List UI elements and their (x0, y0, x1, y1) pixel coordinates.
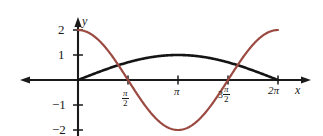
fraction-body: π 2 (122, 89, 129, 109)
y-axis (74, 17, 81, 136)
plot-canvas (0, 0, 323, 136)
fraction-half-pi: π 2 (122, 89, 129, 109)
fraction-denominator: 2 (122, 99, 129, 108)
y-axis-label: y (82, 15, 87, 27)
fraction-denominator: 2 (223, 95, 230, 104)
x-axis-label: x (295, 84, 300, 96)
y-tick-label-neg2: −2 (52, 123, 66, 136)
x-axis-left-arrow (20, 76, 30, 83)
fraction-body: π 2 (223, 85, 230, 105)
x-tick-label-pi: π (174, 86, 180, 97)
x-axis (20, 76, 311, 83)
y-tick-label-neg1: −1 (52, 98, 66, 111)
two-pi-text: 2π (268, 84, 279, 96)
y-tick-label-2: 2 (58, 23, 65, 36)
y-tick-label-1: 1 (58, 48, 65, 61)
function-graph-figure: y x 2 1 −1 −2 π 2 π 3 π 2 2π (0, 0, 323, 136)
y-axis-up-arrow (74, 17, 81, 27)
fraction-three-half-pi: 3 π 2 (218, 85, 230, 105)
x-axis-right-arrow (301, 76, 311, 83)
x-tick-label-three-half-pi: 3 π 2 (218, 85, 230, 105)
x-tick-label-two-pi: 2π (268, 85, 279, 96)
x-tick-label-half-pi: π 2 (122, 85, 129, 109)
